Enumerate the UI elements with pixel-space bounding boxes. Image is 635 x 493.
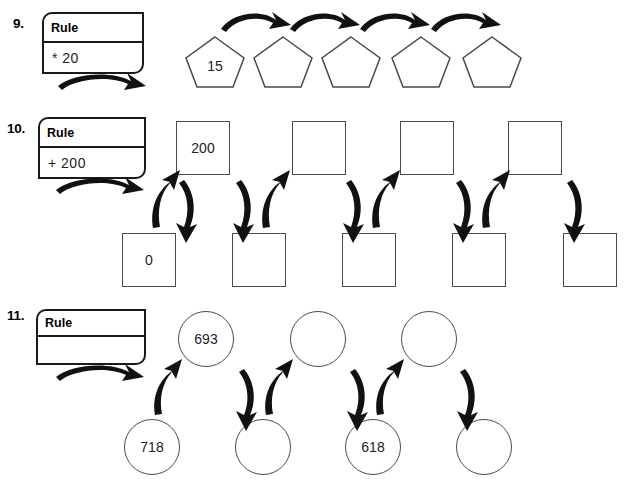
pentagon-outline-icon (462, 36, 522, 88)
circle-frame-top-1[interactable]: 693 (178, 311, 234, 367)
pentagon-outline-icon (253, 36, 313, 88)
square-frame-bottom-3[interactable] (342, 233, 396, 287)
circle-frame-top-2[interactable] (290, 311, 346, 367)
pentagon-frame-2[interactable] (253, 36, 313, 88)
arrow-p1-p2 (221, 12, 291, 32)
arrow-up-c2 (265, 359, 293, 415)
rule-box-header-10: Rule (40, 119, 144, 148)
square-frame-bottom-4[interactable] (452, 233, 506, 287)
pentagon-value-1: 15 (207, 59, 223, 73)
problem-number-9: 9. (13, 16, 24, 31)
rule-label-11: Rule (45, 316, 72, 330)
square-frame-bottom-1[interactable]: 0 (122, 233, 176, 287)
arrow-up-2 (262, 170, 290, 228)
rule-arrow-9 (58, 73, 146, 90)
rule-box-body-10[interactable]: + 200 (40, 148, 144, 177)
circle-value-bottom-1: 718 (140, 440, 163, 454)
rule-box-9[interactable]: Rule * 20 (42, 12, 144, 74)
rule-value-9: * 20 (52, 50, 79, 66)
problem-number-10: 10. (7, 121, 25, 136)
rule-box-body-11[interactable] (38, 337, 144, 363)
pentagon-frame-4[interactable] (391, 36, 451, 88)
square-frame-top-1[interactable]: 200 (176, 121, 230, 175)
rule-box-11[interactable]: Rule (36, 309, 146, 365)
circle-value-top-1: 693 (194, 332, 217, 346)
rule-box-10[interactable]: Rule + 200 (38, 117, 146, 179)
circle-value-bottom-3: 618 (361, 440, 384, 454)
pentagon-outline-icon (321, 36, 381, 88)
pentagon-frame-1[interactable]: 15 (185, 36, 245, 88)
square-frame-top-3[interactable] (400, 121, 454, 175)
problem-number-11: 11. (7, 308, 24, 323)
rule-label-9: Rule (51, 21, 78, 35)
arrow-p3-p4 (360, 12, 430, 32)
problem-9: 9. Rule * 20 15 (0, 0, 635, 110)
circle-frame-bottom-4[interactable] (456, 419, 512, 475)
arrow-up-c3 (376, 359, 404, 415)
problem-10: 10. Rule + 200 200 0 (0, 110, 635, 295)
square-value-top-1: 200 (191, 141, 214, 155)
arrow-down-1 (176, 180, 197, 243)
arrow-p2-p3 (290, 12, 360, 32)
square-frame-bottom-2[interactable] (232, 233, 286, 287)
arrow-up-1 (152, 170, 180, 228)
rule-value-10: + 200 (48, 155, 86, 171)
rule-box-header-9: Rule (44, 14, 142, 43)
rule-box-header-11: Rule (38, 311, 144, 337)
pentagon-outline-icon (391, 36, 451, 88)
arrow-p4-p5 (431, 12, 501, 32)
circle-frame-bottom-2[interactable] (235, 419, 291, 475)
problem-11: 11. Rule 693 718 618 (0, 295, 635, 493)
arrow-up-3 (372, 170, 400, 228)
worksheet-page: 9. Rule * 20 15 (0, 0, 635, 493)
arrow-up-c1 (154, 359, 182, 415)
circle-frame-bottom-3[interactable]: 618 (345, 419, 401, 475)
square-frame-bottom-5[interactable] (563, 233, 617, 287)
arrow-up-4 (482, 170, 510, 228)
square-frame-top-2[interactable] (292, 121, 346, 175)
rule-label-10: Rule (47, 126, 74, 140)
pentagon-frame-5[interactable] (462, 36, 522, 88)
circle-frame-top-3[interactable] (401, 311, 457, 367)
square-frame-top-4[interactable] (508, 121, 562, 175)
rule-box-body-9[interactable]: * 20 (44, 43, 142, 72)
circle-frame-bottom-1[interactable]: 718 (124, 419, 180, 475)
square-value-bottom-1: 0 (145, 253, 153, 267)
pentagon-frame-3[interactable] (321, 36, 381, 88)
rule-arrow-11 (56, 364, 144, 381)
rule-arrow-10 (56, 177, 144, 194)
